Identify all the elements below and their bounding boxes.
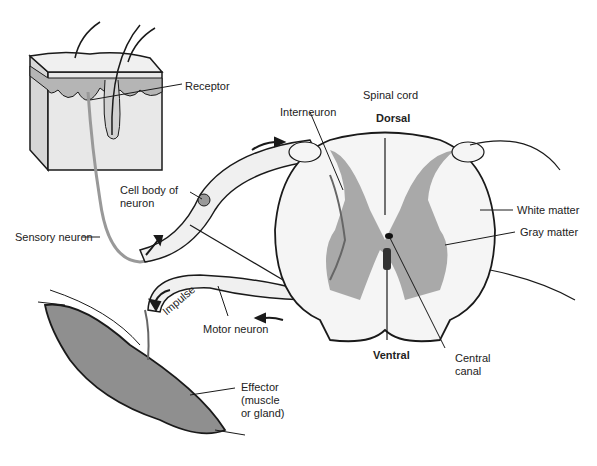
muscle-effector (38, 290, 245, 435)
label-gray-matter: Gray matter (520, 226, 578, 239)
label-central-canal-1: Central (455, 352, 490, 365)
label-effector-3: or gland) (241, 407, 284, 420)
label-central-canal-2: canal (455, 365, 481, 378)
label-receptor: Receptor (185, 80, 230, 93)
label-dorsal: Dorsal (376, 112, 410, 125)
label-interneuron: Interneuron (280, 106, 336, 119)
label-effector-1: Effector (241, 381, 279, 394)
label-spinal-cord: Spinal cord (363, 89, 418, 102)
label-effector-2: (muscle (241, 394, 280, 407)
label-cell-body-1: Cell body of (120, 184, 178, 197)
label-ventral: Ventral (373, 349, 410, 362)
skin-block (30, 22, 182, 170)
label-sensory-neuron: Sensory neuron (15, 231, 93, 244)
reflex-arc-diagram: Receptor Spinal cord Interneuron Dorsal … (0, 0, 597, 466)
label-motor-neuron: Motor neuron (203, 323, 268, 336)
label-white-matter: White matter (517, 204, 579, 217)
label-cell-body-2: neuron (120, 197, 154, 210)
